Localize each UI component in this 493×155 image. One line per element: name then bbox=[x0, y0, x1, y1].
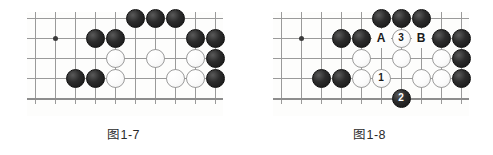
stone-white[interactable] bbox=[352, 49, 371, 68]
stone-white[interactable] bbox=[146, 49, 165, 68]
stone-black[interactable] bbox=[186, 29, 205, 48]
stone-black[interactable] bbox=[352, 29, 371, 48]
board-bottom-edge bbox=[273, 98, 469, 100]
point-label-b[interactable]: B bbox=[412, 29, 431, 48]
figure-caption: 图1-8 bbox=[246, 124, 493, 143]
grid-line-vertical bbox=[281, 12, 282, 104]
stone-black[interactable] bbox=[392, 9, 411, 28]
stone-white-move-3[interactable]: 3 bbox=[392, 29, 411, 48]
stone-white[interactable] bbox=[186, 49, 205, 68]
figure-caption: 图1-7 bbox=[0, 124, 247, 143]
stone-black[interactable] bbox=[332, 29, 351, 48]
stone-black-move-2[interactable]: 2 bbox=[392, 89, 411, 108]
star-point bbox=[299, 36, 304, 41]
board-bottom-edge bbox=[27, 98, 223, 100]
stone-white[interactable] bbox=[412, 69, 431, 88]
stone-black[interactable] bbox=[412, 9, 431, 28]
go-diagram-page: 图1-7AB312图1-8 bbox=[0, 0, 493, 155]
grid-line-vertical bbox=[95, 12, 96, 104]
stone-white[interactable] bbox=[432, 69, 451, 88]
stone-black[interactable] bbox=[206, 49, 225, 68]
grid-line-vertical bbox=[55, 12, 56, 104]
stone-white[interactable] bbox=[392, 49, 411, 68]
star-point bbox=[53, 36, 58, 41]
stone-black[interactable] bbox=[452, 49, 471, 68]
grid-line-vertical bbox=[341, 12, 342, 104]
grid-line-vertical bbox=[35, 12, 36, 104]
stone-black[interactable] bbox=[66, 69, 85, 88]
stone-black[interactable] bbox=[86, 29, 105, 48]
stone-black[interactable] bbox=[206, 29, 225, 48]
stone-black[interactable] bbox=[86, 69, 105, 88]
stone-black[interactable] bbox=[146, 9, 165, 28]
move-number: 1 bbox=[378, 73, 384, 83]
stone-white[interactable] bbox=[166, 69, 185, 88]
stone-black[interactable] bbox=[312, 69, 331, 88]
grid-line-vertical bbox=[75, 12, 76, 104]
go-board[interactable] bbox=[27, 12, 223, 116]
grid-line-vertical bbox=[321, 12, 322, 104]
stone-black[interactable] bbox=[452, 29, 471, 48]
stone-white-move-1[interactable]: 1 bbox=[372, 69, 391, 88]
stone-white[interactable] bbox=[352, 69, 371, 88]
go-figure-fig-1-7: 图1-7 bbox=[0, 0, 247, 155]
stone-black[interactable] bbox=[332, 69, 351, 88]
stone-black[interactable] bbox=[372, 9, 391, 28]
stone-white[interactable] bbox=[106, 69, 125, 88]
stone-white[interactable] bbox=[106, 49, 125, 68]
stone-black[interactable] bbox=[432, 29, 451, 48]
stone-black[interactable] bbox=[452, 69, 471, 88]
stone-black[interactable] bbox=[126, 9, 145, 28]
move-number: 3 bbox=[398, 33, 404, 43]
go-board[interactable]: AB312 bbox=[273, 12, 469, 116]
stone-black[interactable] bbox=[166, 9, 185, 28]
move-number: 2 bbox=[398, 93, 404, 103]
stone-white[interactable] bbox=[432, 49, 451, 68]
grid-line-vertical bbox=[301, 12, 302, 104]
stone-black[interactable] bbox=[106, 29, 125, 48]
stone-black[interactable] bbox=[206, 69, 225, 88]
point-label-a[interactable]: A bbox=[372, 29, 391, 48]
stone-white[interactable] bbox=[186, 69, 205, 88]
go-figure-fig-1-8: AB312图1-8 bbox=[246, 0, 493, 155]
